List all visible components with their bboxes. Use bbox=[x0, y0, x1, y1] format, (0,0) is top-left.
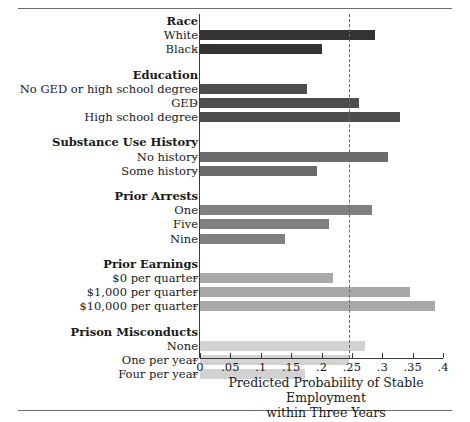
x-axis-tick bbox=[230, 353, 231, 358]
x-axis-tick-label: .3 bbox=[365, 360, 399, 374]
bar-row: Black– bbox=[0, 42, 470, 56]
bar-row: High school degree– bbox=[0, 110, 470, 124]
group-heading-row: Prior Arrests bbox=[0, 189, 470, 203]
group-label: Education bbox=[0, 68, 198, 82]
bar-row: One– bbox=[0, 203, 470, 217]
category-label: GED bbox=[0, 96, 198, 110]
bar bbox=[200, 301, 435, 311]
category-label: White bbox=[0, 28, 198, 42]
x-axis-tick-label: .2 bbox=[305, 360, 339, 374]
bar-row: Five– bbox=[0, 217, 470, 231]
x-axis-line bbox=[200, 358, 443, 359]
bar bbox=[200, 98, 359, 108]
category-label: Nine bbox=[0, 232, 198, 246]
bar-row: $0 per quarter– bbox=[0, 271, 470, 285]
group-label: Prior Earnings bbox=[0, 257, 198, 271]
category-label: No GED or high school degree bbox=[0, 82, 198, 96]
x-axis-tick bbox=[261, 353, 262, 358]
bar-row: $10,000 per quarter– bbox=[0, 299, 470, 313]
bar bbox=[200, 287, 410, 297]
category-label: Some history bbox=[0, 164, 198, 178]
bar bbox=[200, 219, 329, 229]
bar-row: None– bbox=[0, 339, 470, 353]
x-axis-tick bbox=[413, 353, 414, 358]
bar bbox=[200, 234, 285, 244]
x-axis-title-line2: within Three Years bbox=[200, 405, 452, 420]
x-axis-tick bbox=[200, 353, 201, 358]
category-label: No history bbox=[0, 150, 198, 164]
x-axis-tick bbox=[352, 353, 353, 358]
group-heading-row: Prior Earnings bbox=[0, 257, 470, 271]
bar bbox=[200, 44, 322, 54]
category-label: Five bbox=[0, 217, 198, 231]
category-label: One per year bbox=[0, 353, 198, 367]
x-axis-tick-label: 0 bbox=[183, 360, 217, 374]
bar bbox=[200, 84, 307, 94]
y-axis-tick-mark: – bbox=[192, 339, 198, 353]
x-axis-tick bbox=[382, 353, 383, 358]
bar-row: Some history– bbox=[0, 164, 470, 178]
category-label: High school degree bbox=[0, 110, 198, 124]
y-axis-tick-mark: – bbox=[192, 96, 198, 110]
x-axis-tick-label: .15 bbox=[274, 360, 308, 374]
y-axis-tick-mark: – bbox=[192, 164, 198, 178]
category-label: Black bbox=[0, 42, 198, 56]
y-axis-tick-mark: – bbox=[192, 28, 198, 42]
y-axis-tick-mark: – bbox=[192, 285, 198, 299]
category-label: Four per year bbox=[0, 367, 198, 381]
x-axis-tick-label: .4 bbox=[426, 360, 460, 374]
group-heading-row: Substance Use History bbox=[0, 135, 470, 149]
bar bbox=[200, 152, 388, 162]
category-label: $1,000 per quarter bbox=[0, 285, 198, 299]
x-axis-tick-label: .1 bbox=[244, 360, 278, 374]
y-axis-tick-mark: – bbox=[192, 299, 198, 313]
bar-row: Nine– bbox=[0, 232, 470, 246]
bar-row: GED– bbox=[0, 96, 470, 110]
group-label: Prior Arrests bbox=[0, 189, 198, 203]
bar-row: No history– bbox=[0, 150, 470, 164]
bar bbox=[200, 205, 372, 215]
category-label: $0 per quarter bbox=[0, 271, 198, 285]
x-axis-tick-label: .25 bbox=[335, 360, 369, 374]
y-axis-tick-mark: – bbox=[192, 232, 198, 246]
group-label: Substance Use History bbox=[0, 135, 198, 149]
bar-row: No GED or high school degree– bbox=[0, 82, 470, 96]
y-axis-tick-mark: – bbox=[192, 150, 198, 164]
group-heading-row: Race bbox=[0, 14, 470, 28]
bar-row: White– bbox=[0, 28, 470, 42]
y-axis-tick-mark: – bbox=[192, 42, 198, 56]
x-axis-tick bbox=[443, 353, 444, 358]
x-axis-tick-label: .05 bbox=[213, 360, 247, 374]
bar-row: $1,000 per quarter– bbox=[0, 285, 470, 299]
y-axis-tick-mark: – bbox=[192, 203, 198, 217]
y-axis-line bbox=[199, 14, 200, 358]
reference-line bbox=[349, 14, 350, 358]
category-label: None bbox=[0, 339, 198, 353]
y-axis-tick-mark: – bbox=[192, 217, 198, 231]
x-axis-title-line1: Predicted Probability of Stable Employme… bbox=[200, 375, 452, 405]
x-axis-tick bbox=[322, 353, 323, 358]
x-axis-title: Predicted Probability of Stable Employme… bbox=[200, 375, 452, 420]
bar bbox=[200, 166, 317, 176]
y-axis-tick-mark: – bbox=[192, 271, 198, 285]
group-label: Race bbox=[0, 14, 198, 28]
x-axis-tick-label: .35 bbox=[396, 360, 430, 374]
plot-area: RaceWhite–Black–EducationNo GED or high … bbox=[0, 14, 470, 359]
y-axis-tick-mark: – bbox=[192, 82, 198, 96]
bar bbox=[200, 112, 400, 122]
y-axis-tick-mark: – bbox=[192, 110, 198, 124]
group-label: Prison Misconducts bbox=[0, 325, 198, 339]
top-divider-rule bbox=[18, 8, 452, 9]
category-label: One bbox=[0, 203, 198, 217]
bar bbox=[200, 273, 333, 283]
group-heading-row: Education bbox=[0, 68, 470, 82]
x-axis-tick bbox=[291, 353, 292, 358]
bar bbox=[200, 341, 365, 351]
category-label: $10,000 per quarter bbox=[0, 299, 198, 313]
group-heading-row: Prison Misconducts bbox=[0, 325, 470, 339]
